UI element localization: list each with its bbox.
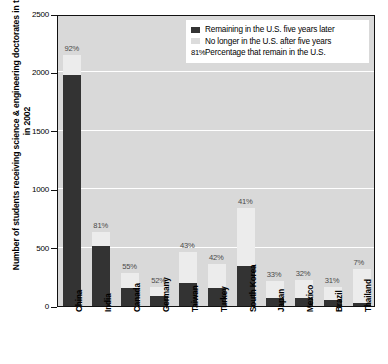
legend-swatch-dark-icon xyxy=(191,27,200,33)
y-tick-label: 1000 xyxy=(9,185,49,194)
y-tick-label: 500 xyxy=(9,244,49,253)
chart-legend: Remaining in the U.S. five years later N… xyxy=(186,20,369,63)
bar-percent-label: 32% xyxy=(296,269,311,278)
x-tick-label: China xyxy=(75,290,84,312)
legend-label: No longer in the U.S. after five years xyxy=(205,37,331,46)
bar-segment-left-us xyxy=(92,232,110,246)
y-tick-label: 1500 xyxy=(9,127,49,136)
legend-row: 81% Percentage that remain in the U.S. xyxy=(191,47,365,59)
bar-group xyxy=(63,55,81,306)
bar-percent-label: 41% xyxy=(238,197,253,206)
x-tick-label: South Korea xyxy=(249,264,258,312)
bar-percent-label: 31% xyxy=(325,276,340,285)
x-tick-label: Thailand xyxy=(364,279,373,312)
x-tick-label: Japan xyxy=(277,289,286,312)
chart-root: Number of students receiving science & e… xyxy=(0,0,388,364)
legend-label: Percentage that remain in the U.S. xyxy=(205,48,326,57)
bar-percent-label: 33% xyxy=(267,270,282,279)
bar-segment-left-us xyxy=(63,55,81,75)
bar-segment-left-us xyxy=(237,208,255,266)
bar-percent-label: 81% xyxy=(93,221,108,230)
y-tick-label: 0 xyxy=(9,302,49,311)
legend-row: No longer in the U.S. after five years xyxy=(191,36,365,48)
x-tick-label: India xyxy=(104,293,113,312)
bar-percent-label: 42% xyxy=(209,253,224,262)
bar-percent-label: 55% xyxy=(122,262,137,271)
x-tick-label: Brazil xyxy=(335,290,344,312)
legend-label: Remaining in the U.S. five years later xyxy=(205,25,334,34)
bar-segment-remaining-us xyxy=(63,75,81,306)
legend-row: Remaining in the U.S. five years later xyxy=(191,24,365,36)
bar-segment-left-us xyxy=(208,264,226,288)
x-tick-label: Turkey xyxy=(220,286,229,312)
bar-percent-label: 7% xyxy=(354,258,365,267)
legend-swatch-light-icon xyxy=(191,38,200,44)
x-tick-label: Germany xyxy=(162,277,171,312)
bar-segment-left-us xyxy=(179,252,197,283)
y-tick-label: 2000 xyxy=(9,68,49,77)
bar-percent-label: 92% xyxy=(64,44,79,53)
x-tick-label: Canada xyxy=(133,283,142,312)
legend-percent-example: 81% xyxy=(191,48,200,57)
x-tick-label: Taiwan xyxy=(191,285,200,312)
x-tick-label: Mexico xyxy=(306,285,315,312)
bar-percent-label: 43% xyxy=(180,241,195,250)
y-tick-label: 2500 xyxy=(9,10,49,19)
